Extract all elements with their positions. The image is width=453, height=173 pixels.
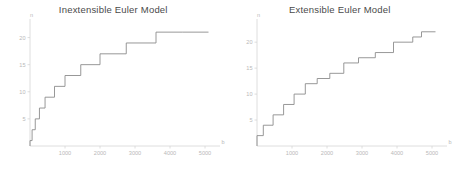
x-tick-label: 1000: [59, 150, 71, 156]
y-tick-label: 20: [246, 39, 252, 45]
x-tick-label: 4000: [164, 150, 176, 156]
step-curve: [257, 32, 436, 146]
x-tick-label: 5000: [199, 150, 211, 156]
x-tick-label: 2000: [320, 150, 332, 156]
panel-extensible-euler-model: Extensible Euler Model 51015201000200030…: [227, 0, 453, 173]
plot-inextensible-euler-model: 510152010002000300040005000nb: [0, 0, 226, 173]
step-curve: [30, 32, 209, 146]
panel-inextensible-euler-model: Inextensible Euler Model 510152010002000…: [0, 0, 227, 173]
y-tick-label: 15: [246, 65, 252, 71]
x-tick-label: 2000: [94, 150, 106, 156]
figure-two-panel-step-charts: Inextensible Euler Model 510152010002000…: [0, 0, 453, 173]
plot-extensible-euler-model: 510152010002000300040005000nb: [227, 0, 453, 173]
y-axis-label: n: [30, 12, 33, 18]
y-tick-label: 20: [19, 35, 25, 41]
y-tick-label: 15: [19, 62, 25, 68]
x-tick-label: 5000: [425, 150, 437, 156]
y-tick-label: 5: [249, 117, 252, 123]
x-tick-label: 1000: [285, 150, 297, 156]
y-tick-label: 10: [19, 89, 25, 95]
x-tick-label: 4000: [390, 150, 402, 156]
y-tick-label: 5: [22, 116, 25, 122]
x-axis-label: b: [448, 139, 451, 145]
y-tick-label: 10: [246, 91, 252, 97]
y-axis-label: n: [256, 12, 259, 18]
x-tick-label: 3000: [129, 150, 141, 156]
x-axis-label: b: [221, 139, 224, 145]
x-tick-label: 3000: [355, 150, 367, 156]
